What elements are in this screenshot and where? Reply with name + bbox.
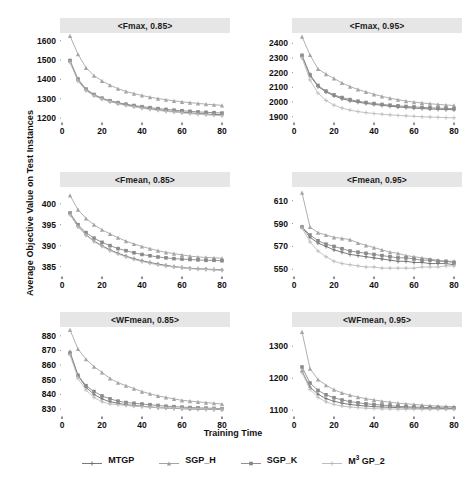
y-axis-tick-label: 395 [42, 220, 56, 230]
legend-marker-sgp_h-icon [158, 455, 180, 466]
y-axis-tick-label: 1200 [37, 113, 56, 123]
series-markers-sgp_h [300, 191, 456, 264]
legend-entry: M3 GP_2 [321, 454, 385, 466]
y-axis-tick-label: 2200 [269, 68, 288, 78]
y-axis-tick-label: 1600 [37, 36, 56, 46]
x-axis-tick-label: 80 [449, 280, 458, 290]
y-axis-tick-label: 850 [42, 375, 56, 385]
series-line-m3gp_2 [302, 372, 454, 409]
y-axis-tick-label: 2100 [269, 82, 288, 92]
legend-label: M3 GP_2 [348, 454, 385, 466]
x-axis-tick-label: 0 [292, 126, 297, 136]
legend-label: SGP_K [267, 455, 298, 465]
x-axis-tick-label: 20 [329, 280, 338, 290]
y-axis-tick-label: 860 [42, 360, 56, 370]
x-axis-tick-label: 0 [60, 420, 65, 430]
legend-entry: MTGP [81, 455, 134, 466]
series-line-m3gp_2 [70, 62, 222, 115]
panel-fmean-095: <Fmean, 0.95>550570590610020406080 [292, 172, 462, 300]
legend-marker-sgp_k-icon [240, 455, 262, 466]
panel-wfmean-095: <WFmean, 0.95>110012001300020406080 [292, 312, 462, 440]
x-axis-tick-label: 20 [97, 420, 106, 430]
x-axis-tick-label: 60 [177, 280, 186, 290]
multi-panel-line-chart-figure: Average Objective Value on Test Instance… [0, 0, 466, 485]
x-axis-tick-label: 80 [217, 126, 226, 136]
legend-marker-mtgp-icon [81, 455, 103, 466]
y-axis-tick-label: 550 [274, 264, 288, 274]
x-axis-tick-label: 40 [137, 126, 146, 136]
y-axis-tick-label: 570 [274, 241, 288, 251]
y-axis-tick-label: 1500 [37, 55, 56, 65]
legend-label: MTGP [108, 455, 134, 465]
y-axis-tick-label: 830 [42, 404, 56, 414]
y-axis-tick-label: 400 [42, 199, 56, 209]
series-line-m3gp_2 [70, 215, 222, 271]
panel-fmax-095: <Fmax, 0.95>1900200021002200230024000204… [292, 18, 462, 146]
series-line-mtgp [302, 371, 454, 408]
series-line-mtgp [302, 56, 454, 110]
y-axis-tick-label: 870 [42, 345, 56, 355]
x-axis-tick-label: 40 [369, 280, 378, 290]
panel-fmean-085: <Fmean, 0.85>385390395400020406080 [60, 172, 230, 300]
x-axis-tick-label: 80 [217, 420, 226, 430]
series-line-mtgp [70, 352, 222, 410]
series-line-m3gp_2 [70, 355, 222, 409]
y-axis-tick-label: 1400 [37, 74, 56, 84]
series-line-sgp_h [302, 193, 454, 262]
series-markers-sgp_h [300, 35, 456, 108]
series-markers-sgp_h [68, 193, 224, 260]
y-axis-tick-label: 590 [274, 219, 288, 229]
x-axis-tick-label: 40 [137, 420, 146, 430]
series-markers-m3gp_2 [68, 353, 224, 412]
panel-wfmean-085: <WFmean, 0.85>83084085086087088002040608… [60, 312, 230, 440]
panel-fmax-085: <Fmax, 0.85>1200130014001500160002040608… [60, 18, 230, 146]
legend-entry: SGP_H [158, 455, 216, 466]
series-markers-sgp_k [68, 59, 224, 115]
series-line-m3gp_2 [302, 228, 454, 268]
y-axis-tick-label: 1900 [269, 112, 288, 122]
x-axis-tick-label: 0 [292, 420, 297, 430]
x-axis-tick-label: 60 [177, 420, 186, 430]
series-markers-m3gp_2 [68, 213, 224, 273]
x-axis-tick-label: 40 [369, 126, 378, 136]
x-axis-tick-label: 0 [292, 280, 297, 290]
y-axis-tick-label: 2400 [269, 38, 288, 48]
x-axis-tick-label: 20 [97, 126, 106, 136]
x-axis-tick-label: 0 [60, 126, 65, 136]
x-axis-tick-label: 0 [60, 280, 65, 290]
legend-entry: SGP_K [240, 455, 298, 466]
legend-marker-m3gp-2-icon [321, 455, 343, 466]
x-axis-tick-label: 60 [409, 420, 418, 430]
y-axis-tick-label: 840 [42, 389, 56, 399]
legend-label: SGP_H [185, 455, 216, 465]
y-axis-tick-label: 1300 [269, 341, 288, 351]
x-axis-tick-label: 40 [369, 420, 378, 430]
series-markers-sgp_k [300, 365, 456, 410]
y-axis-tick-label: 2300 [269, 53, 288, 63]
x-axis-tick-label: 80 [449, 126, 458, 136]
y-axis-tick-label: 610 [274, 196, 288, 206]
series-markers-m3gp_2 [300, 56, 456, 120]
y-axis-tick-label: 390 [42, 241, 56, 251]
legend: MTGPSGP_HSGP_KM3 GP_2 [0, 448, 466, 472]
x-axis-tick-label: 40 [137, 280, 146, 290]
x-axis-tick-label: 20 [97, 280, 106, 290]
y-axis-label: Average Objective Value on Test Instance… [25, 73, 35, 333]
x-axis-tick-label: 80 [449, 420, 458, 430]
x-axis-tick-label: 60 [409, 126, 418, 136]
y-axis-tick-label: 1200 [269, 373, 288, 383]
series-markers-sgp_k [300, 54, 456, 111]
x-axis-tick-label: 60 [177, 126, 186, 136]
y-axis-tick-label: 1300 [37, 94, 56, 104]
series-markers-mtgp [300, 54, 455, 112]
x-axis-tick-label: 20 [329, 126, 338, 136]
y-axis-tick-label: 1100 [270, 405, 288, 415]
x-axis-tick-label: 20 [329, 420, 338, 430]
series-markers-mtgp [68, 212, 223, 272]
x-axis-tick-label: 60 [409, 280, 418, 290]
series-line-sgp_h [302, 37, 454, 106]
y-axis-tick-label: 2000 [269, 97, 288, 107]
y-axis-tick-label: 385 [42, 262, 56, 272]
x-axis-tick-label: 80 [217, 280, 226, 290]
series-line-sgp_k [70, 353, 222, 408]
